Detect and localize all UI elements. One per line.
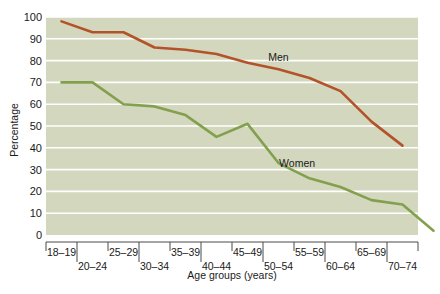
x-axis-title: Age groups (years) [187, 269, 276, 281]
chart-figure: 0102030405060708090100 18–1920–2425–2930… [0, 0, 440, 294]
y-axis-tick-label: 100 [24, 11, 42, 23]
x-axis-tick-label: 45–49 [233, 246, 262, 258]
y-axis-tick-labels: 0102030405060708090100 [24, 11, 42, 241]
y-axis-tick-label: 80 [30, 55, 42, 67]
y-axis-tick-label: 50 [30, 120, 42, 132]
x-axis-tick-label: 35–39 [171, 246, 200, 258]
y-axis-title: Percentage [8, 103, 20, 157]
x-axis-tick-label: 70–74 [388, 260, 417, 272]
x-axis-tick-label: 20–24 [78, 260, 107, 272]
y-axis-tick-label: 60 [30, 98, 42, 110]
y-axis-tick-label: 70 [30, 76, 42, 88]
series-label-women: Women [279, 157, 315, 169]
x-axis-tick-label: 55–59 [295, 246, 324, 258]
series-label-men: Men [268, 51, 289, 63]
y-axis-tick-label: 40 [30, 142, 42, 154]
line-chart: 0102030405060708090100 18–1920–2425–2930… [0, 0, 440, 294]
x-axis-tick-label: 65–69 [357, 246, 386, 258]
x-axis-tick-label: 60–64 [326, 260, 355, 272]
y-axis-tick-label: 0 [36, 229, 42, 241]
y-axis-tick-label: 30 [30, 164, 42, 176]
y-axis-tick-label: 90 [30, 33, 42, 45]
x-axis-tick-label: 30–34 [140, 260, 169, 272]
x-axis-tick-label: 18–19 [47, 246, 76, 258]
y-axis-tick-label: 20 [30, 185, 42, 197]
y-axis-tick-label: 10 [30, 207, 42, 219]
x-axis-tick-label: 25–29 [109, 246, 138, 258]
